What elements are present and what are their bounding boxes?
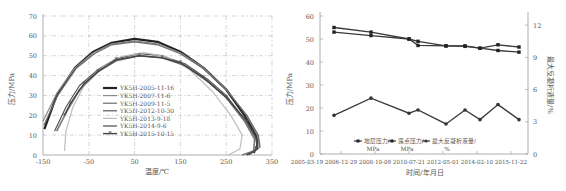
legend-label: 地层压力/ [364,137,390,145]
marker: * [69,100,73,108]
x-tick-labels: -150-5050150250350 [36,158,279,166]
data-marker [407,111,411,115]
y-tick: 20 [29,112,37,120]
y-tick: 60 [306,13,314,21]
pressure-time-chart: 0102030405060 036912 2005-03-192006-12-2… [280,0,566,191]
data-marker [496,49,499,52]
legend-label: YK5H-2015-10-15 [119,130,174,137]
legend-label: 露点压力/ [398,137,424,145]
phase-envelope-chart: 010203040506070 -150-5050150250350 压力/MP… [0,0,280,191]
y-tick: 40 [29,72,37,80]
x-tick: -50 [84,158,94,166]
y-tick: 10 [29,132,37,140]
legend-label-unit: MPa [366,146,380,152]
data-marker [496,43,499,46]
legend-label-unit: MPa [400,146,414,152]
legend: 地层压力/MPa露点压力/MPa最大反凝析液量/% [354,137,476,152]
x-axis-label: 温度/℃ [145,167,169,176]
y-left-tick-labels: 0102030405060 [306,13,323,159]
y2-tick: 9 [533,54,537,62]
y-tick: 30 [306,82,314,90]
y-axis-label: 压力/MPa [7,73,16,105]
y-tick: 40 [306,59,314,67]
data-marker [444,44,447,47]
x-tick: 2008-10-09 [359,159,392,165]
data-marker [517,50,520,53]
legend-label: YK5H-2007-11-6 [119,92,170,99]
data-marker [332,114,336,118]
legend-label: YK5H-2014-9-6 [119,122,167,129]
data-marker [369,34,372,37]
marker: * [245,118,249,126]
series-lines [332,26,521,126]
data-marker [416,40,419,43]
x-tick: 2014-02-10 [461,159,494,165]
y-tick: 60 [29,32,37,40]
x-tick: 2012-05-01 [427,159,459,165]
x-tick: 350 [266,158,278,166]
data-marker [369,96,373,100]
data-marker [517,118,521,122]
data-marker [478,118,482,122]
data-marker [416,44,419,47]
marker: * [96,68,100,76]
y-tick: 30 [29,92,37,100]
legend-label: YK5H-2013-9-18 [119,115,170,122]
x-tick: 50 [130,158,138,166]
data-marker [463,108,467,112]
legend-label: YK5H-2005-11-16 [119,84,174,91]
x-tick: 2015-11-22 [495,159,528,165]
x-tick: 2005-03-19 [291,159,324,165]
marker: * [137,52,141,60]
marker: * [224,94,228,102]
data-marker [463,45,466,48]
y-tick: 70 [29,13,37,21]
data-marker [416,108,420,112]
legend-marker: * [108,130,112,138]
y-tick: 50 [29,52,37,60]
data-marker [444,122,448,126]
y-tick: 10 [306,128,314,136]
y2-tick: 12 [533,22,541,30]
legend: YK5H-2005-11-16YK5H-2007-11-6YK5H-2009-1… [103,84,174,138]
y2-tick: 3 [533,118,537,126]
y-tick: 0 [310,151,314,159]
data-marker [478,47,481,50]
marker: * [160,54,164,62]
marker: * [63,112,67,120]
marker: * [82,80,86,88]
y-tick: 50 [306,36,314,44]
marker: * [202,74,206,82]
legend-marker [391,140,394,143]
legend-label-unit: % [444,146,450,152]
data-marker [332,30,335,33]
data-marker [407,37,410,40]
x-tick: 2006-12-29 [325,159,358,165]
x-tick: 2010-07-21 [393,159,425,165]
data-marker [369,30,372,33]
y-left-axis-label: 压力/MPa [285,73,294,105]
phase-envelope-svg: 010203040506070 -150-5050150250350 压力/MP… [0,0,280,191]
data-marker [496,103,500,107]
y-right-axis-label: 最大反凝析液量/% [546,56,555,114]
legend-marker [357,140,360,143]
legend-label: YK5H-2009-11-5 [119,100,170,107]
series-line [334,98,519,124]
data-marker [332,26,335,29]
legend-label: 最大反凝析液量/ [432,137,476,145]
x-axis-label: 时间/年月日 [406,168,443,177]
y-tick: 20 [306,105,314,113]
legend-label: YK5H-2012-10-30 [119,107,174,114]
legend-marker [424,139,427,142]
marker: * [115,56,119,64]
y-right-tick-labels: 036912 [525,22,541,159]
x-tick-labels: 2005-03-192006-12-292008-10-092010-07-21… [291,151,528,165]
y2-tick: 6 [533,86,537,94]
pressure-time-svg: 0102030405060 036912 2005-03-192006-12-2… [280,0,566,191]
x-tick: 250 [220,158,232,166]
y2-tick: 0 [533,151,537,159]
x-tick: 150 [174,158,186,166]
x-tick: -150 [36,158,51,166]
data-marker [517,45,520,48]
marker: * [179,59,183,67]
